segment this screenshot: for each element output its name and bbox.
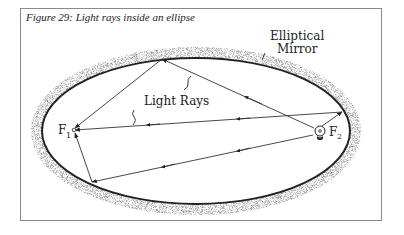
focus-2-subscript: 2 bbox=[337, 132, 342, 141]
focus-1-subscript: 1 bbox=[66, 131, 71, 140]
focus-1-point bbox=[72, 128, 76, 132]
mirror-label-line1: Elliptical bbox=[270, 29, 324, 43]
mirror-label-line2: Mirror bbox=[277, 42, 318, 56]
light-rays-label: Light Rays bbox=[144, 94, 209, 108]
elliptical-mirror bbox=[42, 58, 350, 204]
ellipse-diagram: Elliptical Mirror Light Rays F 1 F 2 bbox=[0, 0, 404, 235]
